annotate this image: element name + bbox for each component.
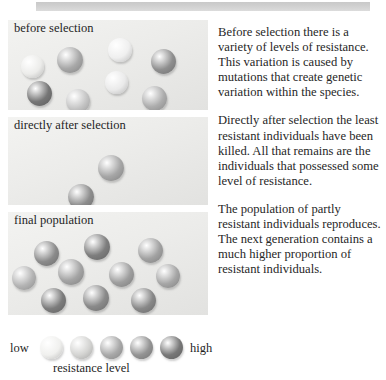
- panel-title-before-selection: before selection: [14, 21, 93, 36]
- organism-circle: [156, 264, 180, 288]
- panel-directly-after-selection: directly after selection: [8, 117, 208, 205]
- population-panels: before selection directly after selectio…: [8, 20, 208, 322]
- organism-circle: [138, 238, 163, 263]
- organism-circle: [83, 285, 109, 311]
- organism-circle: [142, 86, 167, 111]
- legend-caption: resistance level: [53, 361, 130, 376]
- organism-circle: [98, 155, 124, 181]
- organism-circle: [57, 47, 83, 73]
- top-decorative-bar: [36, 2, 370, 11]
- panel-title-final-population: final population: [14, 213, 94, 228]
- panel-title-directly-after-selection: directly after selection: [14, 118, 126, 133]
- note-final-population: The population of partly resistant indiv…: [218, 202, 382, 277]
- organism-circle: [68, 184, 94, 205]
- organism-circle: [58, 259, 84, 285]
- organism-circle: [27, 81, 52, 106]
- organism-circle: [109, 262, 134, 287]
- legend: low high resistance level: [8, 336, 220, 376]
- explanation-column: Before selection there is a variety of l…: [218, 25, 382, 290]
- legend-swatch: [40, 336, 63, 359]
- legend-swatch: [70, 336, 93, 359]
- organism-circle: [105, 71, 128, 94]
- note-before-selection: Before selection there is a variety of l…: [218, 25, 382, 100]
- note-directly-after-selection: Directly after selection the least resis…: [218, 113, 382, 188]
- legend-high-label: high: [190, 341, 212, 356]
- organism-circle: [66, 89, 90, 110]
- legend-swatch-row: low high: [8, 336, 220, 360]
- organism-circle: [21, 55, 44, 78]
- panel-before-selection: before selection: [8, 20, 208, 110]
- organism-circle: [151, 49, 176, 74]
- legend-swatch: [130, 336, 153, 359]
- legend-swatch: [100, 336, 123, 359]
- organism-circle: [131, 288, 156, 313]
- organism-circle: [12, 266, 36, 290]
- legend-low-label: low: [10, 341, 29, 356]
- organism-circle: [84, 234, 110, 260]
- organism-circle: [41, 288, 66, 313]
- organism-circle: [34, 241, 59, 266]
- panel-final-population: final population: [8, 212, 208, 315]
- legend-swatch: [160, 336, 183, 359]
- organism-circle: [108, 38, 132, 62]
